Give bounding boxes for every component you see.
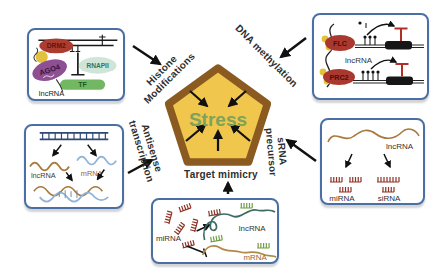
arrow-srna-to-stress <box>287 140 316 161</box>
lncrna-label: lncRNA <box>239 224 267 233</box>
label-target-mimicry: Target mimicry <box>176 170 266 181</box>
tf-label: TF <box>78 81 87 88</box>
mirna-combs <box>330 177 361 192</box>
binding-arrow <box>197 225 210 231</box>
histone-marks <box>70 35 106 52</box>
drm2-label: DRM2 <box>47 42 66 49</box>
lncrna-stress-diagram: Stress Histone Modifications DNA methyla… <box>0 0 434 269</box>
target-mimicry-box: miRNA lncRNA mRNA <box>151 198 279 264</box>
rnapii-label: RNAPII <box>86 62 108 69</box>
flc-label: FLC <box>333 39 347 48</box>
dna-methylation-box: FLC PRC2 lncRNA <box>312 13 429 100</box>
repression-tbar <box>396 64 409 77</box>
rna-duplex <box>34 187 108 202</box>
repression-tbar <box>395 29 408 42</box>
processing-arrow-right <box>384 154 390 167</box>
lncrna-label: lncRNA <box>386 142 414 151</box>
mrna-label: mRNA <box>244 253 268 262</box>
lncrna-label: lncRNA <box>345 56 373 65</box>
pairing-arrow-left <box>66 172 72 180</box>
stress-label: Stress <box>189 109 247 130</box>
mirna-label: miRNA <box>156 234 182 243</box>
antisense-transcription-box: lncRNA mRNA <box>24 124 124 209</box>
transcription-arrow-right <box>88 145 96 156</box>
lncrna-strand <box>328 129 419 142</box>
mrna-strand <box>77 157 116 165</box>
arrow-methylation-to-stress <box>281 38 306 57</box>
lncrna-label: lncRNA <box>31 171 56 180</box>
mirna-label: miRNA <box>329 194 355 203</box>
lncrna-strand <box>30 163 69 171</box>
dna-ladder <box>40 133 109 139</box>
upper-gene <box>355 21 424 49</box>
prc2-label: PRC2 <box>329 73 348 82</box>
srna-precursor-box: lncRNA miRNA siRNA <box>320 118 425 205</box>
transcription-arrow-left <box>53 145 61 156</box>
processing-arrow-left <box>346 154 352 167</box>
lncrna-label: lncRNA <box>39 89 64 98</box>
label-srna-precursor: sRNA precursor <box>262 116 290 188</box>
sirna-combs <box>377 177 399 192</box>
histone-modification-box: DRM2 AGO4 RNAPII TF lncRNA <box>27 28 125 101</box>
arrow-histone-to-stress <box>133 46 160 64</box>
sirna-label: siRNA <box>378 194 401 203</box>
